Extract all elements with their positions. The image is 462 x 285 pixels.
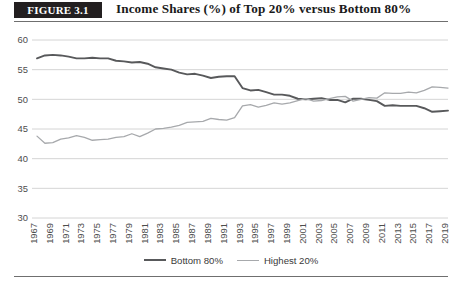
figure-header: FIGURE 3.1 Income Shares (%) of Top 20% … [0, 0, 462, 22]
x-tick-label: 1979 [123, 223, 134, 244]
series-line [37, 55, 448, 112]
chart-plot-area: 3035404550556019671969197119731975197719… [0, 22, 462, 260]
x-tick-label: 1975 [91, 223, 102, 244]
x-tick-label: 1991 [218, 223, 229, 244]
x-tick-label: 1993 [234, 223, 245, 244]
x-tick-label: 1987 [186, 223, 197, 244]
line-chart-svg: 3035404550556019671969197119731975197719… [0, 22, 462, 260]
x-tick-label: 1985 [170, 223, 181, 244]
legend-entry: Bottom 80% [144, 255, 223, 266]
x-axis-labels: 1967196919711973197519771979198119831985… [28, 223, 450, 244]
x-tick-label: 1981 [139, 223, 150, 244]
figure-number-label: FIGURE 3.1 [27, 4, 88, 16]
legend-entry: Highest 20% [237, 255, 318, 266]
x-tick-label: 1995 [249, 223, 260, 244]
x-tick-label: 1967 [28, 223, 39, 244]
y-tick-label: 50 [18, 94, 28, 105]
x-tick-label: 2017 [423, 223, 434, 244]
x-tick-label: 2003 [313, 223, 324, 244]
footer-divider [14, 276, 448, 277]
legend-label: Bottom 80% [171, 255, 223, 266]
x-tick-label: 1983 [154, 223, 165, 244]
x-tick-label: 1971 [60, 223, 71, 244]
x-tick-label: 1973 [75, 223, 86, 244]
legend-line-swatch [144, 259, 166, 261]
y-tick-label: 60 [18, 34, 28, 45]
x-tick-label: 1997 [265, 223, 276, 244]
x-tick-label: 2011 [376, 223, 387, 243]
x-tick-label: 2009 [360, 223, 371, 244]
chart-legend: Bottom 80%Highest 20% [0, 252, 462, 268]
y-tick-label: 35 [18, 183, 28, 194]
x-tick-label: 2019 [439, 223, 450, 244]
y-gridlines: 30354045505560 [18, 34, 448, 223]
x-tick-label: 2005 [328, 223, 339, 244]
x-tick-label: 2001 [297, 223, 308, 244]
figure-panel: FIGURE 3.1 Income Shares (%) of Top 20% … [0, 0, 462, 285]
y-tick-label: 45 [18, 123, 28, 134]
x-tick-label: 1989 [202, 223, 213, 244]
figure-title: Income Shares (%) of Top 20% versus Bott… [116, 1, 411, 17]
x-tick-label: 1999 [281, 223, 292, 244]
series-line [37, 87, 448, 143]
y-tick-label: 30 [18, 212, 28, 223]
x-tick-label: 1969 [44, 223, 55, 244]
legend-line-swatch [237, 260, 259, 261]
y-tick-label: 55 [18, 64, 28, 75]
legend-label: Highest 20% [264, 255, 318, 266]
x-tick-label: 2007 [344, 223, 355, 244]
x-tick-label: 2013 [392, 223, 403, 244]
y-tick-label: 40 [18, 153, 28, 164]
x-tick-label: 1977 [107, 223, 118, 244]
x-tick-label: 2015 [407, 223, 418, 244]
figure-number-badge: FIGURE 3.1 [14, 2, 102, 18]
